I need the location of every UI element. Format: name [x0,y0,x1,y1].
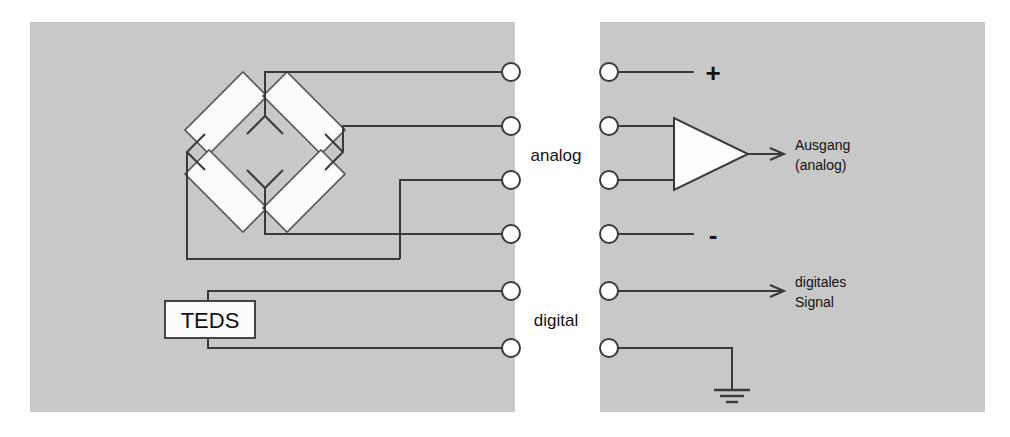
terminal-signal-plus-right[interactable] [600,117,618,135]
label-plus: + [705,58,720,88]
terminal-excitation-plus-right[interactable] [600,63,618,81]
instrument-side-panel [600,22,985,412]
terminal-digital-ground-right[interactable] [600,339,618,357]
terminal-digital-signal-right[interactable] [600,282,618,300]
terminal-excitation-minus-right[interactable] [600,225,618,243]
terminal-digital-signal-left[interactable] [502,282,520,300]
label-digital: digital [534,311,578,330]
terminal-signal-plus-left[interactable] [502,117,520,135]
terminal-digital-ground-left[interactable] [502,339,520,357]
terminal-signal-minus-left[interactable] [502,171,520,189]
label-analog-output-line2: (analog) [795,157,846,173]
label-minus: - [709,220,718,250]
label-analog: analog [530,146,581,165]
terminal-signal-minus-right[interactable] [600,171,618,189]
label-digital-output-line1: digitales [795,274,846,290]
terminal-excitation-plus-left[interactable] [502,63,520,81]
label-analog-output-line1: Ausgang [795,137,850,153]
label-teds: TEDS [181,308,240,333]
circuit-diagram: analog digital TEDS + - Ausgang (analog)… [0,0,1010,437]
label-digital-output-line2: Signal [795,294,834,310]
diagram-canvas: analog digital TEDS + - Ausgang (analog)… [0,0,1010,437]
terminal-excitation-minus-left[interactable] [502,225,520,243]
